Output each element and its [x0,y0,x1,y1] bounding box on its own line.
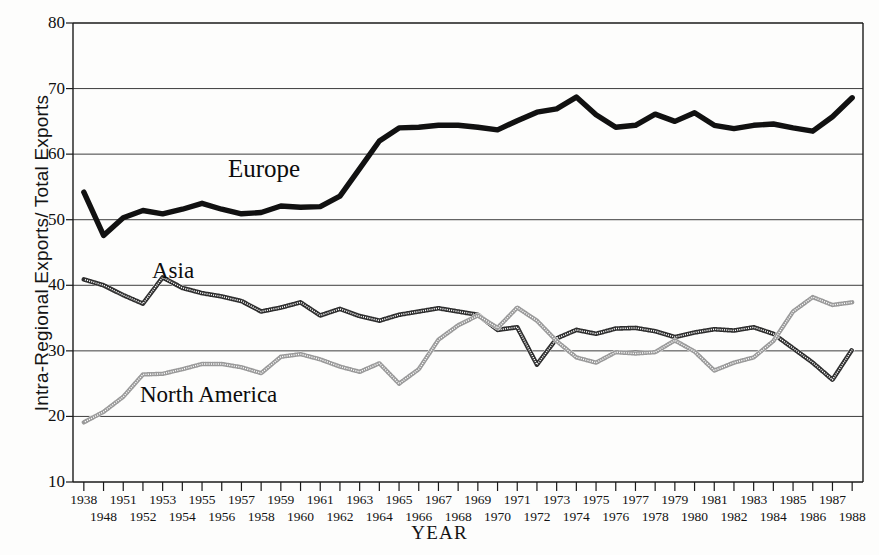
chart-figure: Intra-Regional Exports/ Total Exports YE… [0,0,879,555]
x-tick-label: 1987 [809,492,855,508]
y-tick-label: 10 [21,472,65,492]
x-axis-title: YEAR [0,522,879,544]
y-tick-label: 20 [21,406,65,426]
y-tick-label: 80 [21,13,65,33]
y-tick-label: 30 [21,341,65,361]
series-label-north-america: North America [140,382,277,408]
y-axis-title: Intra-Regional Exports/ Total Exports [31,43,53,463]
plot-frame [73,23,863,482]
series-label-europe: Europe [228,155,300,183]
line-chart-plot [0,0,879,555]
y-tick-label: 50 [21,210,65,230]
y-tick-label: 60 [21,144,65,164]
y-tick-label: 70 [21,79,65,99]
data-series [84,97,852,422]
x-tick-label: 1988 [829,509,875,525]
axis-ticks [66,23,852,491]
y-tick-label: 40 [21,275,65,295]
series-label-asia: Asia [152,258,194,284]
